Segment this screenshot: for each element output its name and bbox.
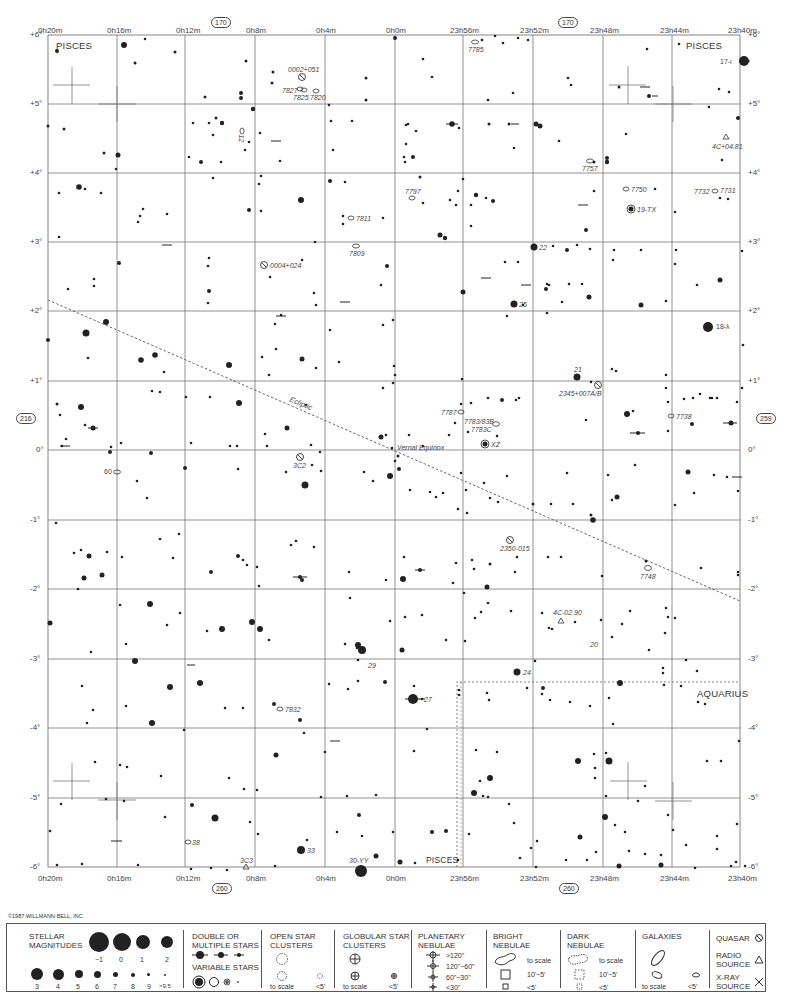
galaxy-symbols (646, 948, 706, 982)
open-cluster-symbols (274, 953, 334, 985)
variable-star-symbols (192, 975, 252, 989)
legend-title: GLOBULAR STAR CLUSTERS (343, 932, 413, 950)
finder-crosses (53, 66, 692, 820)
legend-dark-nebulae: DARK NEBULAE to scale 10'−5' <5' (561, 924, 634, 991)
legend-title: RADIO SOURCE (716, 951, 752, 969)
dec-label: +1° (748, 377, 760, 385)
page-ref-bottom-left[interactable]: 260 (212, 883, 232, 894)
dec-label: -4° (30, 724, 40, 732)
dec-label: +6° (748, 31, 760, 39)
magnitude-symbol (147, 973, 150, 976)
object-label: 25 (519, 301, 527, 308)
object-label: 7748 (640, 573, 656, 580)
page-ref-bottom-right[interactable]: 260 (559, 883, 579, 894)
magnitude-label: >9.5 (159, 983, 171, 989)
ra-label: 0h20m (38, 875, 62, 883)
dec-label: -6° (748, 863, 758, 871)
dec-label: -5° (748, 794, 758, 802)
dec-label: 0° (748, 446, 756, 454)
object-label: 18-λ (716, 323, 730, 330)
object-label: 7750 (631, 186, 647, 193)
object-label: 0002+051 (288, 66, 319, 73)
double-star-marks (60, 61, 750, 841)
magnitude-label: 9 (147, 983, 151, 990)
object-label: 7785 (468, 46, 484, 53)
magnitude-label: 8 (131, 983, 135, 990)
ra-label: 0h4m (316, 27, 336, 35)
page-ref-top-left[interactable]: 170 (211, 17, 231, 28)
object-label: 27 (424, 696, 432, 703)
legend-open-clusters: OPEN STAR CLUSTERS to scale <5' (262, 924, 335, 991)
page-ref-top-right[interactable]: 170 (558, 17, 578, 28)
legend-planetary-nebulae: PLANETARY NEBULAE >120" 120"−60" 60"−30"… (412, 924, 487, 991)
object-label: 7809 (349, 250, 365, 257)
ra-label: 23h56m (450, 875, 479, 883)
legend-title: DARK NEBULAE (567, 932, 627, 950)
magnitude-label: 5 (76, 983, 80, 990)
legend-note: <5' (599, 984, 608, 991)
ra-label: 0h16m (107, 27, 131, 35)
dec-label: +5° (748, 100, 760, 108)
magnitude-symbol (89, 932, 109, 952)
copyright-notice: ©1987 WILLMANN-BELL, INC. (8, 913, 84, 919)
ra-label: 0h8m (246, 875, 266, 883)
magnitude-label: −1 (95, 956, 103, 963)
object-label: 22 (539, 244, 547, 251)
magnitude-symbol (136, 935, 150, 949)
magnitude-symbol (113, 933, 131, 951)
dec-label: +5° (30, 100, 42, 108)
chart-legend: STELLAR MAGNITUDES −1 0 1 2 3 4 5 6 7 8 … (6, 923, 766, 992)
radio-source-icon (754, 955, 764, 965)
constellation-label: PISCES (56, 40, 92, 51)
object-label: 7787 (441, 409, 457, 416)
object-label: 2345+007A/B (559, 390, 602, 397)
ra-label: 23h48m (590, 875, 619, 883)
legend-stellar-magnitudes: STELLAR MAGNITUDES −1 0 1 2 3 4 5 6 7 8 … (7, 924, 182, 991)
magnitude-symbol (113, 972, 118, 977)
object-label: 4C+04.81 (712, 143, 743, 150)
magnitude-symbol (94, 971, 101, 978)
legend-note: 10'−5' (599, 971, 617, 978)
page-ref-right[interactable]: 259 (756, 413, 776, 424)
dec-label: -5° (30, 794, 40, 802)
ra-label: 0h4m (316, 875, 336, 883)
galaxies (114, 40, 719, 844)
object-label: 7832 (285, 706, 301, 713)
dec-label: -4° (748, 724, 758, 732)
page-ref-left[interactable]: 216 (16, 413, 36, 424)
legend-title: QUASAR (716, 934, 756, 943)
radio-sources (243, 134, 729, 869)
magnitude-label: 3 (35, 983, 39, 990)
legend-note: to scale (270, 983, 294, 990)
legend-globular-clusters: GLOBULAR STAR CLUSTERS to scale <5' (335, 924, 410, 991)
ra-label: 23h52m (520, 875, 549, 883)
stars (46, 35, 749, 877)
object-label: 0004+024 (270, 262, 301, 269)
object-label: 33 (307, 847, 315, 854)
magnitude-symbol (164, 974, 166, 976)
dec-label: +3° (748, 238, 760, 246)
dec-label: +2° (30, 307, 42, 315)
magnitude-label: 2 (165, 956, 169, 963)
magnitude-symbol (75, 970, 83, 978)
object-label: 4C-02.90 (553, 609, 582, 616)
coordinate-grid (48, 35, 740, 867)
legend-title: DOUBLE OR MULTIPLE STARS (192, 932, 262, 950)
dec-label: +2° (748, 307, 760, 315)
dec-label: +1° (30, 377, 42, 385)
legend-note: 60"−30" (446, 974, 471, 981)
ra-label: 0h16m (107, 875, 131, 883)
magnitude-symbol (161, 936, 173, 948)
quasar-icon (754, 933, 764, 943)
legend-note: <30" (446, 984, 460, 991)
dec-label: +4° (30, 169, 42, 177)
object-label: 38 (192, 839, 200, 846)
legend-title: PLANETARY NEBULAE (418, 932, 488, 950)
ra-label: 23h44m (660, 875, 689, 883)
object-label: 7732 (694, 188, 710, 195)
legend-title: X-RAY SOURCE (716, 973, 752, 991)
magnitude-label: 1 (140, 956, 144, 963)
ra-label: 23h52m (520, 27, 549, 35)
constellation-label: PISCES (426, 855, 458, 865)
object-label: 7738 (676, 413, 692, 420)
